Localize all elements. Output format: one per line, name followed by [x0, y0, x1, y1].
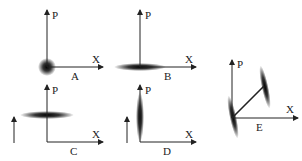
x-label-a: X — [92, 53, 100, 65]
p-label-b: P — [145, 9, 151, 21]
x-label-d: X — [185, 128, 193, 140]
panel-label-c: C — [70, 145, 77, 157]
panel-label-d: D — [163, 145, 171, 157]
panel-a: P X A — [38, 9, 103, 82]
panel-d: P X D — [127, 84, 196, 157]
x-label-b: X — [185, 53, 193, 65]
x-label-e: X — [286, 103, 294, 115]
phase-space-diagram: P X A P X B P X C P X D P X — [0, 0, 302, 161]
panel-label-e: E — [256, 121, 263, 133]
panel-label-b: B — [164, 70, 171, 82]
displacement-line-e — [232, 86, 264, 118]
panel-e: P X E — [225, 58, 298, 139]
p-label-a: P — [52, 9, 58, 21]
panel-b: P X B — [114, 9, 196, 82]
x-label-c: X — [92, 128, 100, 140]
panel-c: P X C — [14, 84, 103, 157]
blob-e-displaced — [257, 65, 273, 109]
p-label-c: P — [52, 84, 58, 96]
p-label-d: P — [145, 84, 151, 96]
panel-label-a: A — [71, 70, 79, 82]
p-label-e: P — [237, 58, 243, 70]
